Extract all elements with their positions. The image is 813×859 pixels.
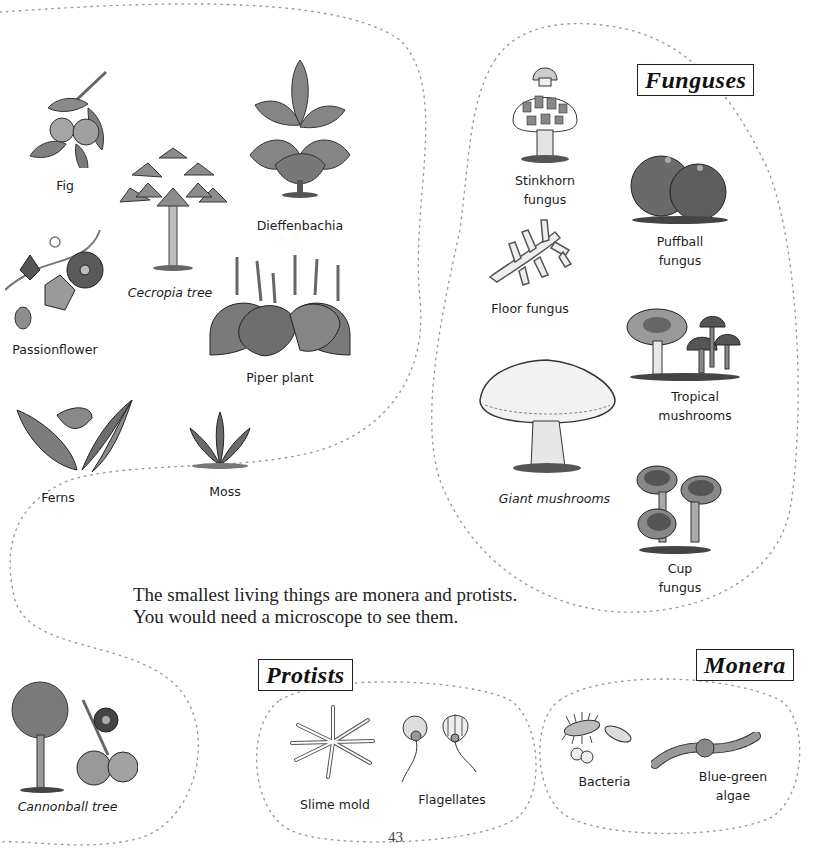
piper-plant-label: Piper plant <box>225 368 335 387</box>
flagellates-label: Flagellates <box>412 790 492 809</box>
floor-fungus-illustration <box>485 212 580 287</box>
stinkhorn-fungus-label: Stinkhornfungus <box>505 171 585 209</box>
page-number: 43 <box>388 829 403 846</box>
floor-fungus-label: Floor fungus <box>480 299 580 318</box>
cup-fungus-label: Cupfungus <box>640 559 720 597</box>
dieffenbachia-label: Dieffenbachia <box>245 216 355 235</box>
tropical-mushrooms-label: Tropicalmushrooms <box>640 387 750 425</box>
monera-title: Monera <box>696 649 794 681</box>
cannonball-tree-label: Cannonball tree <box>10 797 125 816</box>
slime-mold-illustration <box>288 705 378 780</box>
intro-text-line-2: You would need a microscope to see them. <box>133 606 517 628</box>
ferns-illustration <box>12 400 137 475</box>
blue-green-algae-label: Blue-greenalgae <box>688 767 778 805</box>
cannonball-tree-illustration <box>8 680 138 800</box>
passionflower-label: Passionflower <box>5 340 105 359</box>
dieffenbachia-illustration <box>245 55 355 200</box>
giant-mushrooms-label: Giant mushrooms <box>492 489 617 508</box>
puffball-fungus-label: Puffballfungus <box>630 232 730 270</box>
stinkhorn-fungus-illustration <box>505 58 585 168</box>
piper-plant-illustration <box>205 255 355 360</box>
puffball-fungus-illustration <box>628 150 733 225</box>
passionflower-illustration <box>5 230 105 330</box>
tropical-mushrooms-illustration <box>625 305 745 385</box>
intro-text: The smallest living things are monera an… <box>133 584 517 628</box>
bacteria-illustration <box>560 712 635 767</box>
slime-mold-label: Slime mold <box>290 795 380 814</box>
cup-fungus-illustration <box>635 462 725 557</box>
fig-illustration <box>18 68 113 168</box>
giant-mushrooms-illustration <box>475 355 620 475</box>
flagellates-illustration <box>398 712 483 787</box>
intro-text-line-1: The smallest living things are monera an… <box>133 584 517 606</box>
blue-green-algae-illustration <box>651 732 761 772</box>
protists-title: Protists <box>258 659 353 691</box>
bacteria-label: Bacteria <box>572 772 637 791</box>
ferns-label: Ferns <box>28 488 88 507</box>
moss-label: Moss <box>195 482 255 501</box>
cecropia-tree-illustration <box>118 138 228 273</box>
moss-illustration <box>185 410 255 470</box>
fig-label: Fig <box>40 176 90 195</box>
funguses-title: Funguses <box>637 64 754 96</box>
